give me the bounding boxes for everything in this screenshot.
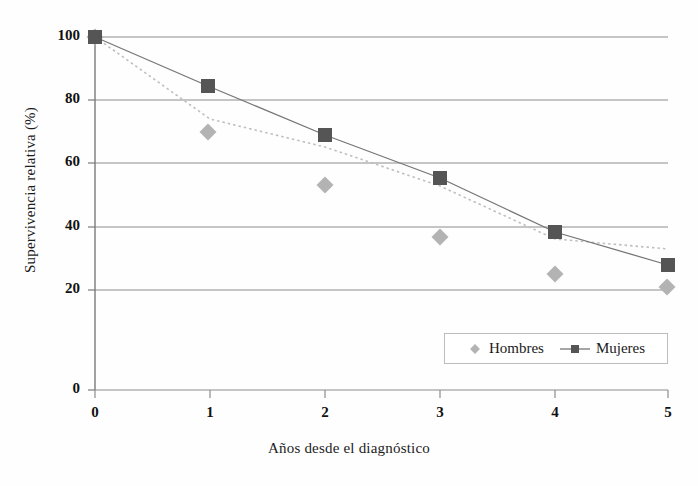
series-mujeres [88, 30, 675, 272]
hombres-markers [87, 29, 676, 296]
x-tick-label-5: 5 [653, 404, 683, 421]
square-marker-icon [560, 342, 590, 356]
x-tick-label-3: 3 [425, 404, 455, 421]
y-axis-title: Supervivencia relativa (%) [22, 40, 39, 340]
y-tick-label-80: 80 [40, 90, 80, 107]
legend: Hombres Mujeres [444, 333, 668, 364]
mujeres-markers [88, 30, 675, 272]
x-axis-title: Años desde el diagnóstico [0, 440, 698, 457]
y-axis [88, 37, 95, 390]
legend-item-hombres: Hombres [467, 340, 544, 357]
y-tick-label-100: 100 [40, 27, 80, 44]
legend-label-mujeres: Mujeres [596, 340, 645, 357]
y-tick-label-0: 0 [40, 380, 80, 397]
y-tick-label-40: 40 [40, 217, 80, 234]
x-tick-label-0: 0 [80, 404, 110, 421]
y-tick-label-20: 20 [40, 280, 80, 297]
diamond-marker-icon [467, 342, 483, 356]
x-axis [95, 390, 668, 398]
x-tick-label-2: 2 [310, 404, 340, 421]
x-tick-label-1: 1 [195, 404, 225, 421]
survival-chart: 100 80 60 40 20 0 0 1 2 3 4 5 Superviven… [0, 0, 698, 486]
legend-item-mujeres: Mujeres [560, 340, 645, 357]
x-tick-label-4: 4 [540, 404, 570, 421]
series-hombres [87, 29, 676, 296]
y-tick-label-60: 60 [40, 153, 80, 170]
legend-label-hombres: Hombres [489, 340, 544, 357]
